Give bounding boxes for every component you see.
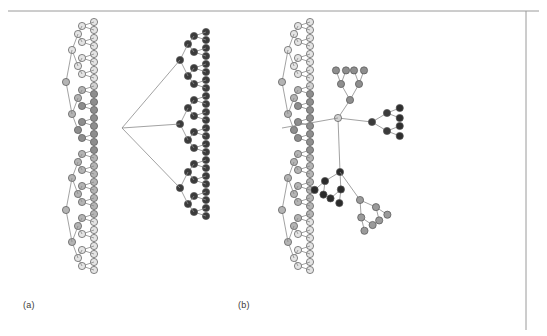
- tree-node: [337, 186, 344, 193]
- tree-edge: [338, 118, 340, 172]
- tree-edge: [282, 178, 288, 210]
- tree-node: [358, 214, 365, 221]
- tree-node: [396, 104, 403, 111]
- tree-node: [396, 114, 403, 121]
- tree-node: [396, 132, 403, 139]
- tree-node: [278, 206, 285, 213]
- figure-canvas: (a) (b): [0, 0, 547, 336]
- tree-edge: [122, 124, 180, 128]
- tree-node: [327, 195, 334, 202]
- tree-figure-svg: [0, 0, 547, 336]
- tree-edge: [66, 50, 72, 82]
- tree-node: [342, 67, 349, 74]
- tree-edge: [122, 128, 180, 188]
- tree-edge: [338, 118, 372, 122]
- tree-node: [311, 186, 318, 193]
- panel-b-graph: [278, 18, 403, 273]
- tree-edge: [282, 210, 288, 242]
- tree-node: [384, 211, 391, 218]
- tree-node: [332, 67, 339, 74]
- tree-edge: [282, 82, 288, 114]
- tree-node: [62, 78, 69, 85]
- tree-node: [321, 177, 328, 184]
- figure-frame: [8, 11, 539, 330]
- tree-node: [336, 199, 343, 206]
- tree-node: [383, 109, 390, 116]
- tree-edge: [66, 178, 72, 210]
- tree-edge: [282, 50, 288, 82]
- panel-label-a: (a): [23, 300, 35, 310]
- tree-node: [376, 217, 383, 224]
- tree-node: [278, 78, 285, 85]
- tree-node: [368, 118, 375, 125]
- tree-node: [356, 196, 363, 203]
- tree-edge: [66, 82, 72, 114]
- tree-node: [369, 221, 376, 228]
- tree-edge: [122, 60, 180, 128]
- tree-edge: [340, 172, 360, 200]
- tree-edge: [66, 210, 72, 242]
- tree-node: [396, 122, 403, 129]
- tree-node: [337, 80, 344, 87]
- tree-node: [383, 127, 390, 134]
- tree-node: [320, 191, 327, 198]
- tree-node: [361, 227, 368, 234]
- tree-node: [350, 67, 357, 74]
- tree-node: [372, 204, 379, 211]
- tree-node: [346, 96, 353, 103]
- tree-node: [355, 80, 362, 87]
- panel-a-graph: [62, 18, 209, 273]
- tree-node: [360, 67, 367, 74]
- panel-label-b: (b): [238, 300, 250, 310]
- tree-node: [62, 206, 69, 213]
